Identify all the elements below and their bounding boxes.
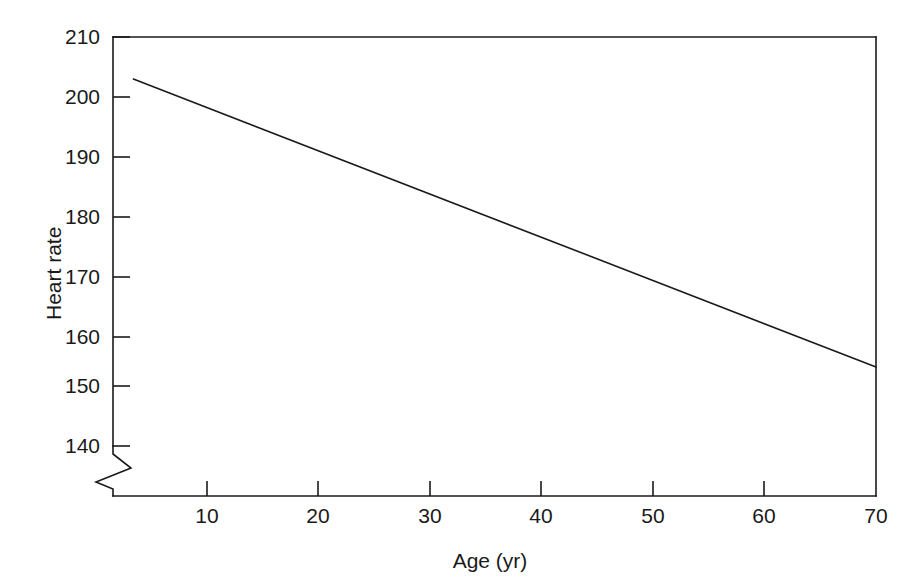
x-tick-label-60: 60 bbox=[752, 504, 775, 528]
axes-frame bbox=[113, 37, 876, 496]
y-tick-label-160: 160 bbox=[12, 325, 100, 349]
y-tick-label-200: 200 bbox=[12, 85, 100, 109]
y-tick-label-140: 140 bbox=[12, 434, 100, 458]
chart-figure: 210 200 190 180 170 160 150 140 10 20 30… bbox=[0, 0, 923, 588]
y-tick-label-150: 150 bbox=[12, 374, 100, 398]
y-tick-label-180: 180 bbox=[12, 205, 100, 229]
x-tick-label-40: 40 bbox=[529, 504, 552, 528]
y-tick-label-210: 210 bbox=[12, 25, 100, 49]
x-tick-label-30: 30 bbox=[418, 504, 441, 528]
x-tick-label-50: 50 bbox=[641, 504, 664, 528]
x-tick-marks bbox=[207, 481, 764, 496]
y-tick-marks bbox=[113, 37, 130, 446]
x-axis-label: Age (yr) bbox=[453, 549, 528, 573]
y-axis-label: Heart rate bbox=[42, 227, 66, 320]
series-line-maximal-heart-rate bbox=[133, 79, 876, 367]
plot-canvas bbox=[0, 0, 923, 588]
x-tick-label-20: 20 bbox=[306, 504, 329, 528]
x-tick-label-10: 10 bbox=[195, 504, 218, 528]
y-axis-break-zigzag bbox=[96, 446, 131, 496]
x-tick-label-70: 70 bbox=[864, 504, 887, 528]
y-tick-label-190: 190 bbox=[12, 145, 100, 169]
